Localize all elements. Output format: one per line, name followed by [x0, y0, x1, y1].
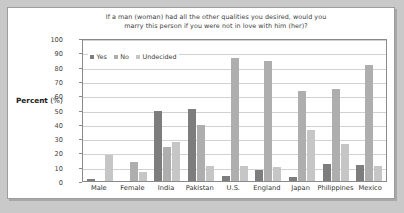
bar-und	[341, 144, 349, 181]
bar-group	[117, 40, 151, 181]
bar-group	[218, 40, 252, 181]
bar-group	[83, 40, 117, 181]
y-axis-tick-label: 30	[41, 136, 63, 144]
x-axis-label: India	[149, 184, 183, 198]
bar-group	[184, 40, 218, 181]
y-axis-tick-label: 100	[41, 36, 63, 44]
figure-panel: If a man (woman) had all the other quali…	[7, 7, 395, 199]
bar-yes	[356, 165, 364, 181]
bar-yes	[289, 177, 297, 181]
x-axis-label: U.S.	[217, 184, 251, 198]
bar-und	[273, 167, 281, 181]
bar-groups	[83, 40, 386, 181]
legend-swatch-undecided-icon	[136, 55, 140, 59]
bar-und	[206, 166, 214, 181]
chart-legend: Yes No Undecided	[88, 53, 179, 61]
legend-item-undecided: Undecided	[136, 53, 177, 61]
y-axis-tick-label: 50	[41, 107, 63, 115]
y-axis-tick-label: 70	[41, 78, 63, 86]
bar-und	[139, 172, 147, 181]
bar-group	[352, 40, 386, 181]
y-axis-tick-mark	[79, 182, 82, 183]
x-axis-label: Male	[82, 184, 116, 198]
chart-title: If a man (woman) had all the other quali…	[66, 13, 366, 30]
y-axis-tick-label: 80	[41, 64, 63, 72]
bar-no	[365, 65, 373, 181]
bar-und	[240, 166, 248, 181]
x-axis-label: Female	[116, 184, 150, 198]
x-axis-label: Pakistan	[183, 184, 217, 198]
legend-swatch-no-icon	[114, 55, 118, 59]
bar-group	[251, 40, 285, 181]
legend-item-yes: Yes	[90, 53, 107, 61]
bar-group	[285, 40, 319, 181]
chart-title-line-1: If a man (woman) had all the other quali…	[66, 13, 366, 22]
bar-yes	[87, 179, 95, 181]
bar-und	[374, 166, 382, 181]
y-axis-tick-label: 20	[41, 150, 63, 158]
bar-yes	[154, 111, 162, 181]
bar-yes	[188, 109, 196, 181]
bar-und	[307, 130, 315, 181]
bar-yes	[222, 176, 230, 181]
bar-no	[298, 91, 306, 181]
bar-yes	[323, 164, 331, 181]
bar-no	[264, 61, 272, 181]
bar-no	[231, 58, 239, 181]
x-axis-label: Philippines	[317, 184, 353, 198]
x-axis-label: England	[250, 184, 284, 198]
bar-no	[332, 89, 340, 181]
bar-no	[197, 125, 205, 181]
legend-item-no: No	[114, 53, 129, 61]
y-axis-tick-label: 10	[41, 164, 63, 172]
bar-und	[172, 142, 180, 181]
y-axis-tick-label: 40	[41, 121, 63, 129]
bar-group	[319, 40, 353, 181]
x-axis-label: Mexico	[353, 184, 387, 198]
bar-no	[130, 162, 138, 181]
bar-group	[150, 40, 184, 181]
screenshot-root: If a man (woman) had all the other quali…	[0, 0, 404, 213]
chart-title-line-2: marry this person if you were not in lov…	[66, 22, 366, 31]
y-axis-tick-label: 60	[41, 93, 63, 101]
legend-swatch-yes-icon	[90, 55, 94, 59]
y-axis-tick-label: 90	[41, 50, 63, 58]
legend-label-no: No	[120, 53, 129, 61]
bar-und	[105, 155, 113, 181]
y-axis-tick-label: 0	[41, 179, 63, 187]
legend-label-yes: Yes	[97, 53, 107, 61]
bar-no	[163, 147, 171, 181]
x-axis-labels: MaleFemaleIndiaPakistanU.S.EnglandJapanP…	[82, 184, 387, 198]
bar-yes	[255, 170, 263, 181]
x-axis-label: Japan	[284, 184, 318, 198]
legend-label-undecided: Undecided	[143, 53, 177, 61]
